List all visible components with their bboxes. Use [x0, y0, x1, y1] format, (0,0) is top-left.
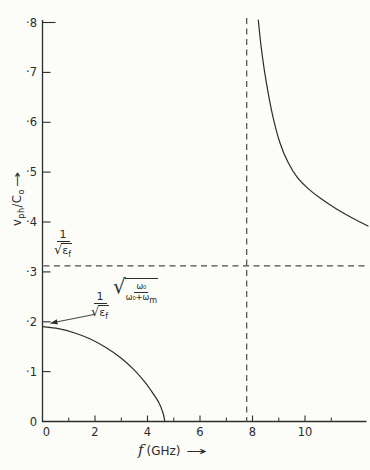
x-tick-label: 6	[196, 425, 203, 439]
y-axis-title-v: v	[10, 219, 24, 226]
fraction-numerator: 1	[57, 229, 70, 242]
x-axis-title-f: f	[138, 441, 144, 459]
y-axis-title: vph/Co→	[10, 154, 26, 246]
fraction: ω₀ ω₀+ωm	[126, 283, 157, 305]
x-axis-title-unit: (GHz)	[147, 444, 181, 458]
annotation-eps-asymptote: 1 √εf	[54, 229, 72, 259]
omega-sum: ω₀+ω	[126, 293, 149, 302]
up-arrow-icon: →	[10, 171, 24, 187]
y-tick-label: ·5	[26, 165, 37, 179]
fraction-denominator: √εf	[54, 242, 72, 259]
y-tick-label: ·8	[26, 16, 37, 30]
y-tick-label: ·6	[26, 115, 37, 129]
fraction-numerator: 1	[94, 291, 107, 304]
annotation-start-value: 1 √εf √ ω₀ ω₀+ωm	[91, 284, 158, 321]
leader-arrowhead-icon	[50, 319, 57, 324]
y-tick-label: ·4	[26, 215, 37, 229]
sqrt-radicand: εf	[98, 305, 109, 321]
sqrt-expression: √εf	[91, 305, 109, 321]
fraction: 1 √εf	[54, 229, 72, 259]
y-axis-title-c: /C	[10, 195, 24, 208]
sqrt-expression: √ ω₀ ω₀+ωm	[113, 278, 158, 305]
epsilon-subscript: f	[68, 250, 71, 259]
y-tick-label: ·2	[26, 315, 37, 329]
fraction-denominator: ω₀+ωm	[126, 293, 157, 305]
fraction-denominator: √εf	[91, 304, 109, 321]
omega-m-subscript: m	[149, 296, 157, 305]
x-tick-label: 10	[298, 425, 313, 439]
sqrt-expression: √εf	[54, 243, 72, 259]
right-arrow-icon: →	[185, 444, 206, 458]
x-tick-label: 8	[249, 425, 256, 439]
y-tick-label: ·7	[26, 65, 37, 79]
y-tick-label: ·3	[26, 265, 37, 279]
sqrt-radicand: ω₀ ω₀+ωm	[125, 278, 158, 305]
sqrt-radicand: εf	[61, 243, 72, 259]
y-axis-title-c-sub: o	[17, 189, 26, 194]
epsilon-subscript: f	[105, 312, 108, 321]
x-axis-title: f(GHz)→	[138, 441, 201, 459]
y-axis-title-v-sub: ph	[17, 208, 26, 219]
x-tick-label: 0	[43, 425, 50, 439]
dispersion-figure: ·8·7·6·5·4·3·2·100246810 vph/Co→ f(GHz)→…	[0, 0, 370, 470]
y-tick-label: ·1	[26, 365, 37, 379]
y-tick-label: 0	[30, 415, 37, 429]
x-tick-label: 2	[91, 425, 98, 439]
x-tick-label: 4	[144, 425, 151, 439]
curve-upper-branch	[258, 20, 368, 226]
curve-lower-branch	[43, 327, 165, 422]
axes	[43, 20, 367, 422]
fraction: 1 √εf	[91, 291, 109, 321]
fraction-numerator: ω₀	[134, 283, 148, 293]
